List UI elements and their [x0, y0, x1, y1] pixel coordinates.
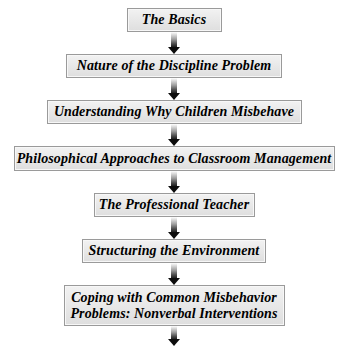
flow-arrow-coping-to-next [168, 326, 180, 346]
arrow-shaft [171, 32, 177, 48]
flow-arrow-philosophies-to-professional [168, 171, 180, 193]
arrow-head-down-icon [168, 139, 180, 146]
flow-node-professional[interactable]: The Professional Teacher [94, 193, 255, 217]
flow-node-basics-label: The Basics [142, 12, 206, 28]
flow-node-understand-label: Understanding Why Children Misbehave [54, 104, 294, 120]
arrow-shaft [171, 78, 177, 94]
flow-node-nature-label: Nature of the Discipline Problem [77, 58, 272, 74]
flow-arrow-professional-to-structuring [168, 217, 180, 239]
arrow-head-down-icon [168, 232, 180, 239]
flow-arrow-understand-to-philosophies [168, 124, 180, 146]
arrow-shaft [171, 124, 177, 140]
flow-node-coping-label-line2: Problems: Nonverbal Interventions [70, 306, 277, 322]
flow-node-nature[interactable]: Nature of the Discipline Problem [66, 54, 282, 78]
flow-node-philosophies[interactable]: Philosophical Approaches to Classroom Ma… [14, 146, 335, 171]
flow-node-coping-label-line1: Coping with Common Misbehavior [71, 290, 277, 306]
arrow-head-down-icon [168, 339, 180, 346]
arrow-shaft [171, 171, 177, 187]
flow-arrow-structuring-to-coping [168, 263, 180, 285]
flow-node-professional-label: The Professional Teacher [99, 197, 249, 213]
flow-node-structuring[interactable]: Structuring the Environment [82, 239, 266, 263]
arrow-shaft [171, 326, 177, 340]
arrow-head-down-icon [168, 278, 180, 285]
flowchart-diagram: The Basics Nature of the Discipline Prob… [0, 0, 348, 346]
flow-arrow-nature-to-understand [168, 78, 180, 100]
arrow-shaft [171, 263, 177, 279]
flow-node-coping[interactable]: Coping with Common Misbehavior Problems:… [64, 285, 285, 326]
flow-node-structuring-label: Structuring the Environment [89, 243, 260, 259]
flow-arrow-basics-to-nature [168, 32, 180, 54]
arrow-head-down-icon [168, 47, 180, 54]
arrow-head-down-icon [168, 186, 180, 193]
flow-node-basics[interactable]: The Basics [127, 8, 222, 32]
flow-node-philosophies-label: Philosophical Approaches to Classroom Ma… [17, 151, 332, 167]
arrow-head-down-icon [168, 93, 180, 100]
arrow-shaft [171, 217, 177, 233]
flow-node-understand[interactable]: Understanding Why Children Misbehave [47, 100, 302, 124]
